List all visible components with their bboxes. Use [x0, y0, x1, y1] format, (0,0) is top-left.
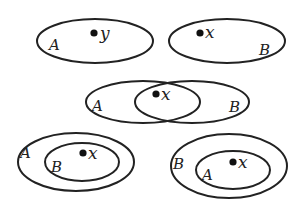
point-dot [229, 158, 236, 165]
set-B-label: B [258, 41, 270, 59]
point-y-label: y [99, 23, 110, 43]
point-dot [196, 29, 203, 36]
panel-B-subset-A-x-in-B: A B x [18, 133, 134, 191]
set-B-label: B [228, 98, 240, 116]
set-B-label: B [50, 158, 62, 176]
set-B-label: B [172, 155, 184, 173]
point-dot [90, 29, 97, 36]
set-A-ellipse [18, 133, 134, 191]
panel-disjoint-y-in-A: A y [37, 19, 153, 63]
panel-A-subset-B-x-in-A: B A x [171, 134, 287, 198]
set-A-label: A [90, 97, 103, 115]
point-dot [152, 90, 159, 97]
set-A-label: A [47, 36, 60, 54]
set-A-label: A [200, 166, 213, 184]
point-dot [79, 149, 86, 156]
set-A-ellipse [86, 81, 200, 123]
set-A-label: A [18, 144, 31, 162]
point-x-label: x [88, 143, 98, 163]
panel-overlap-x-in-A-and-B: A B x [86, 81, 249, 123]
panel-disjoint-x-in-B: B x [169, 19, 285, 63]
point-x-label: x [238, 152, 248, 172]
point-x-label: x [161, 84, 171, 104]
point-x-label: x [205, 22, 215, 42]
set-relations-diagram: A y B x A B x A B x B A x [0, 0, 305, 202]
